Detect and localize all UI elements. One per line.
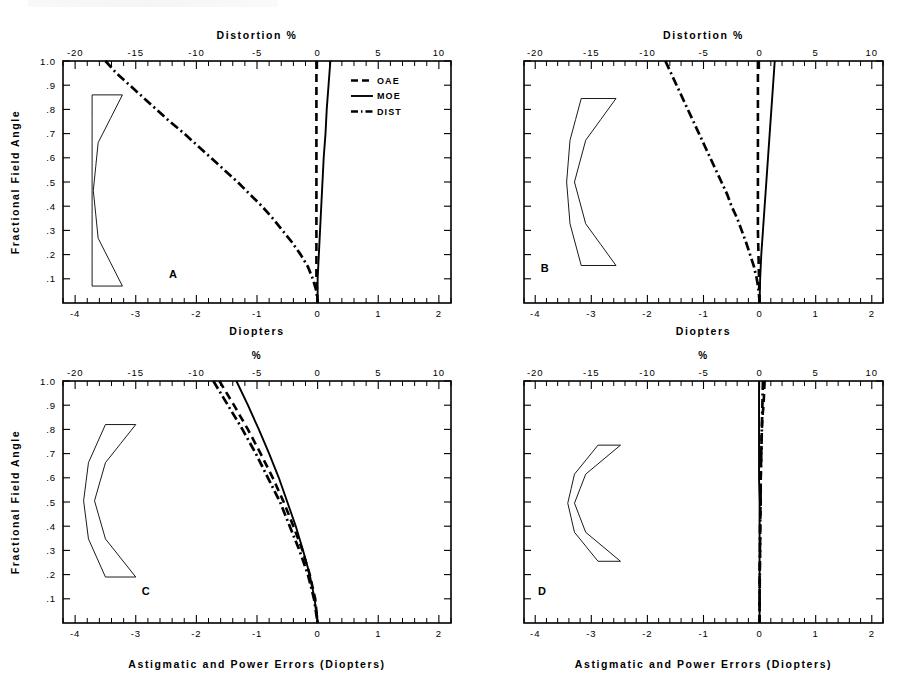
figure-root: -20-15-10-50510Distortion %-4-3-2-1012Di… xyxy=(0,0,899,688)
bottom-axis-label: Astigmatic and Power Errors (Diopters) xyxy=(575,658,832,670)
top-axis-label: % xyxy=(698,350,708,361)
top-tick-label: -15 xyxy=(583,367,599,378)
series-dist xyxy=(760,381,763,623)
bottom-tick-label: -2 xyxy=(642,628,652,639)
plot-frame xyxy=(524,381,883,623)
panel-letter: D xyxy=(538,585,546,597)
top-tick-label: 10 xyxy=(866,367,878,378)
top-tick-label: -10 xyxy=(639,367,655,378)
bottom-tick-label: -4 xyxy=(530,628,540,639)
top-tick-label: 5 xyxy=(813,367,819,378)
top-tick-label: -5 xyxy=(698,367,708,378)
bottom-tick-label: -1 xyxy=(698,628,708,639)
bottom-tick-label: 0 xyxy=(757,628,763,639)
top-tick-label: 0 xyxy=(757,367,763,378)
bottom-tick-label: 1 xyxy=(813,628,819,639)
panel-d: -20-15-10-50510%-4-3-2-1012Astigmatic an… xyxy=(0,0,899,688)
lens-cross-section xyxy=(568,445,621,561)
bottom-tick-label: -3 xyxy=(586,628,596,639)
top-tick-label: -20 xyxy=(527,367,543,378)
bottom-tick-label: 2 xyxy=(869,628,875,639)
